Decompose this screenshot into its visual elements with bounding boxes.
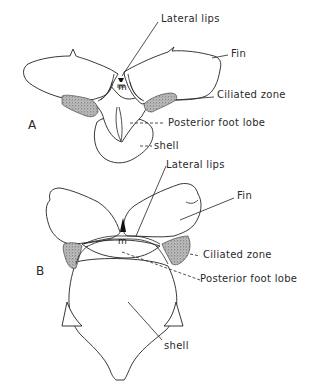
panel-a-label-ciliated-zone: Ciliated zone bbox=[217, 89, 286, 100]
panel-a-letter: A bbox=[28, 118, 37, 132]
panel-b-shell bbox=[69, 259, 177, 380]
panel-a-mouth-label: m bbox=[118, 82, 127, 92]
panel-a-label-fin: Fin bbox=[231, 48, 246, 59]
panel-b-label-shell: shell bbox=[164, 340, 189, 351]
panel-b-label-fin: Fin bbox=[237, 190, 252, 201]
panel-b-label-ciliated-zone: Ciliated zone bbox=[203, 249, 272, 260]
panel-a-label-posterior-foot-lobe: Posterior foot lobe bbox=[168, 117, 265, 128]
panel-a-label-shell: shell bbox=[154, 140, 179, 151]
panel-a-label-lateral-lips: Lateral lips bbox=[161, 13, 220, 24]
panel-b-left-fin bbox=[46, 188, 120, 244]
panel-b: Lateral lips Fin Ciliated zone Posterior… bbox=[36, 159, 297, 380]
pteropod-anatomy-figure: Lateral lips Fin Ciliated zone Posterior… bbox=[0, 0, 310, 385]
panel-a-left-fin bbox=[24, 49, 119, 101]
panel-b-label-lateral-lips: Lateral lips bbox=[166, 159, 225, 170]
panel-b-right-fin bbox=[123, 183, 201, 236]
panel-b-mouth-label: m bbox=[118, 236, 127, 246]
panel-b-label-posterior-foot-lobe: Posterior foot lobe bbox=[200, 273, 297, 284]
panel-a: Lateral lips Fin Ciliated zone Posterior… bbox=[24, 13, 286, 163]
panel-b-letter: B bbox=[36, 264, 44, 278]
